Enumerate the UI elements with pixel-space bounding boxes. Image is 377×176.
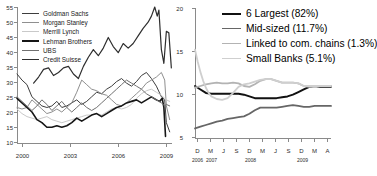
right-xtick — [327, 139, 328, 142]
left-xtick — [118, 144, 119, 147]
legend-label: Lehman Brothers — [43, 37, 92, 46]
right-asset-share-chart: 20 15 10 5 D M J S D M J S D M A 2006 20… — [189, 0, 377, 176]
series-line — [195, 86, 331, 98]
legend-swatch-mid-sized — [222, 28, 241, 29]
legend-swatch-linked-to-com-chains — [222, 43, 241, 44]
legend-swatch-ubs — [22, 50, 39, 51]
series-line — [195, 105, 331, 128]
legend-label: 6 Largest (82%) — [246, 6, 318, 21]
legend-label: Small Banks (5.1%) — [246, 51, 335, 66]
right-xtick — [314, 139, 315, 142]
right-xtick — [288, 139, 289, 142]
legend-label: Morgan Stanley — [43, 18, 88, 27]
legend-swatch-small-banks — [222, 58, 241, 59]
left-xtick-label: 2009 — [152, 153, 181, 159]
right-x-axis — [195, 138, 331, 139]
left-xtick-label: 2006 — [104, 153, 133, 159]
legend-label: Merrill Lynch — [43, 27, 79, 36]
right-year-label: 2009 — [293, 158, 312, 163]
right-xtick — [275, 139, 276, 142]
legend-swatch-lehman-brothers — [22, 40, 39, 42]
left-xtick-label: 2003 — [56, 153, 85, 159]
left-xtick — [70, 144, 71, 147]
right-xtick — [197, 139, 198, 142]
series-line — [17, 72, 170, 119]
left-ytick-label: 20 — [0, 110, 13, 116]
left-ytick-label: 30 — [0, 80, 13, 86]
legend-swatch-credit-suisse — [22, 59, 39, 60]
legend-swatch-morgan-stanley — [22, 22, 39, 23]
left-plot-lines — [17, 7, 173, 144]
left-leverage-chart: 55 50 45 40 35 30 25 20 15 10 2000 2003 … — [0, 0, 189, 176]
right-ytick-label: 5 — [169, 135, 183, 141]
right-year-label: 2008 — [241, 158, 260, 163]
left-ytick-label: 25 — [0, 95, 13, 101]
left-ytick-label: 50 — [0, 20, 13, 26]
legend-swatch-6-largest — [222, 13, 241, 15]
left-ytick-label: 45 — [0, 35, 13, 41]
left-ytick-label: 40 — [0, 50, 13, 56]
right-xtick — [236, 139, 237, 142]
right-xtick — [210, 139, 211, 142]
left-ytick-label: 15 — [0, 125, 13, 131]
left-ytick-label: 10 — [0, 140, 13, 146]
right-xtick — [301, 139, 302, 142]
legend-swatch-merrill-lynch — [22, 31, 39, 32]
right-xtick — [223, 139, 224, 142]
left-ytick-label: 35 — [0, 65, 13, 71]
legend-label: Mid-sized (11.7%) — [246, 21, 327, 36]
left-xtick — [166, 144, 167, 147]
right-ytick-label: 15 — [169, 49, 183, 55]
legend-label: Credit Suisse — [43, 55, 81, 64]
left-xtick — [22, 144, 23, 147]
left-ytick-label: 55 — [0, 5, 13, 11]
legend-swatch-goldman-sachs — [22, 13, 39, 14]
right-xtick-label: A — [320, 148, 335, 154]
legend-label: Linked to com. chains (1.3%) — [246, 36, 377, 51]
left-xtick-label: 2000 — [8, 153, 37, 159]
right-ytick-label: 20 — [169, 6, 183, 12]
legend-label: UBS — [43, 46, 56, 55]
right-ytick-label: 10 — [169, 92, 183, 98]
right-year-label: 2007 — [202, 158, 221, 163]
figure-container: 55 50 45 40 35 30 25 20 15 10 2000 2003 … — [0, 0, 377, 176]
right-xtick — [262, 139, 263, 142]
right-xtick — [249, 139, 250, 142]
legend-label: Goldman Sachs — [43, 9, 88, 18]
